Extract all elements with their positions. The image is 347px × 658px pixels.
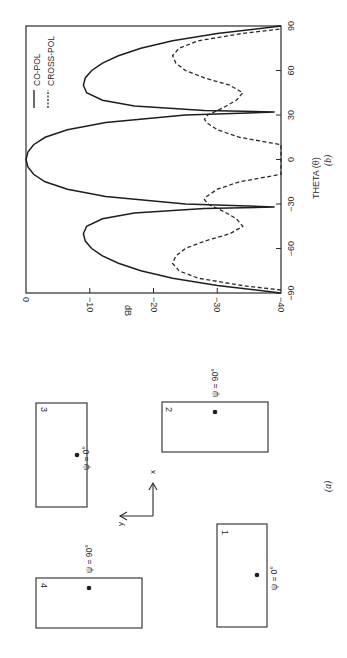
theta-tick-label: −30 [286, 196, 296, 211]
db-tick-label: −10 [85, 297, 95, 312]
x-axis-label: THETA (θ) [311, 157, 321, 199]
panel-a-caption: (a) [323, 481, 334, 492]
element-2-rect [162, 402, 268, 452]
radiation-pattern-chart: 0−10−20−30−40 −90−60−300306090 CO-POL CR… [21, 21, 334, 316]
y-axis-label: dB [123, 305, 133, 316]
db-tick-label: −20 [149, 297, 159, 312]
element-4-number: 4 [39, 583, 49, 588]
db-axis-ticks: 0−10−20−30−40 [21, 288, 286, 312]
theta-tick-label: 90 [286, 21, 296, 31]
element-4-rect [36, 578, 142, 628]
theta-tick-label: 60 [286, 65, 296, 75]
element-3-psi-label: ψ = 0° [81, 446, 91, 470]
theta-tick-label: 0 [286, 157, 296, 162]
legend-cross-pol-label: CROSS-POL [46, 36, 56, 86]
cross-pol-curve [173, 29, 281, 290]
element-2-number: 2 [164, 407, 174, 412]
plot-frame [26, 26, 281, 293]
y-axis-letter: y [116, 522, 125, 526]
legend-co-pol-label: CO-POL [32, 53, 42, 86]
theta-tick-label: −60 [286, 241, 296, 256]
element-1-rect [217, 524, 267, 627]
theta-axis-ticks: −90−60−300306090 [276, 21, 296, 301]
theta-tick-label: 30 [286, 110, 296, 120]
figure-canvas: 0−10−20−30−40 −90−60−300306090 CO-POL CR… [0, 0, 347, 658]
element-3-feed-dot [75, 453, 80, 458]
theta-tick-label: −90 [286, 285, 296, 300]
element-1-number: 1 [220, 530, 230, 535]
db-tick-label: −30 [212, 297, 222, 312]
element-4-psi-label: ψ = 90° [84, 544, 94, 573]
db-tick-label: 0 [21, 297, 31, 302]
db-tick-label: −40 [276, 297, 286, 312]
array-layout-diagram: 3 ψ = 0° 2 ψ = 90° 4 ψ = 90° 1 ψ = 0° x … [36, 368, 334, 628]
element-2-feed-dot [213, 410, 218, 415]
co-pol-curve [26, 26, 281, 293]
chart-legend: CO-POL CROSS-POL [32, 36, 56, 108]
element-1-feed-dot [255, 573, 260, 578]
element-3-rect [36, 403, 87, 507]
element-4-feed-dot [87, 586, 92, 591]
x-axis-letter: x [148, 470, 157, 474]
element-2-psi-label: ψ = 90° [210, 368, 220, 397]
element-1-psi-label: ψ = 0° [269, 566, 279, 590]
coordinate-axes: x y [116, 470, 157, 526]
panel-b-caption: (b) [323, 155, 334, 166]
element-3-number: 3 [39, 407, 49, 412]
